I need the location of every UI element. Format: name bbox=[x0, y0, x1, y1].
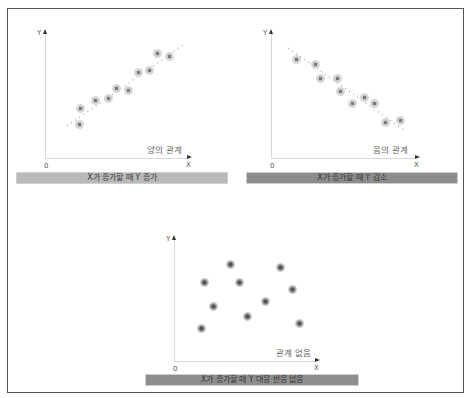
data-point bbox=[348, 99, 357, 108]
origin-label: 0 bbox=[173, 366, 177, 373]
data-point bbox=[235, 278, 244, 287]
data-point bbox=[288, 285, 297, 294]
data-point bbox=[396, 116, 405, 125]
data-point bbox=[197, 324, 206, 333]
x-axis bbox=[174, 361, 316, 362]
relation-label: 관계 없음 bbox=[276, 349, 311, 358]
data-point bbox=[360, 93, 369, 102]
trend-line bbox=[0, 0, 473, 398]
data-point bbox=[381, 118, 390, 127]
data-point bbox=[311, 60, 320, 69]
y-axis-label: Y bbox=[166, 236, 170, 243]
data-point bbox=[200, 278, 209, 287]
data-point bbox=[333, 74, 342, 83]
data-point bbox=[295, 319, 304, 328]
data-point bbox=[209, 302, 218, 311]
x-axis-label: X bbox=[314, 365, 319, 372]
data-point bbox=[370, 99, 379, 108]
data-point bbox=[243, 312, 252, 321]
data-point bbox=[276, 263, 285, 272]
data-point bbox=[261, 297, 270, 306]
data-point bbox=[316, 74, 325, 83]
data-point bbox=[226, 260, 235, 269]
y-axis bbox=[174, 240, 175, 361]
caption-bar: X가 증가할 때 Y 대응 반응 없음 bbox=[145, 374, 359, 386]
x-axis-arrow-icon bbox=[315, 358, 320, 362]
data-point bbox=[336, 87, 345, 96]
data-point bbox=[292, 55, 301, 64]
caption-bar: X가 증가할 때 Y 감소 bbox=[246, 172, 458, 184]
